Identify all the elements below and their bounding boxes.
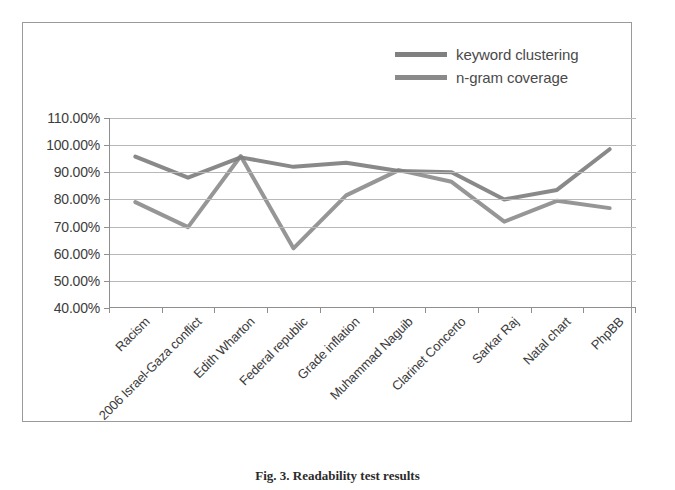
x-axis-category-label: Racism [112, 314, 152, 354]
figure-container: keyword clustering n-gram coverage 110.0… [0, 0, 675, 490]
legend-item-label: n-gram coverage [456, 69, 568, 86]
y-axis-tick [104, 118, 110, 119]
x-axis-category-label: PhpBB [588, 314, 627, 353]
gridline [109, 254, 636, 255]
x-axis-category-label: Sarkar Raj [469, 314, 522, 367]
y-axis-tick [104, 227, 110, 228]
legend-swatch-icon [395, 75, 447, 80]
y-axis-tick-label: 110.00% [47, 110, 100, 126]
chart-frame: keyword clustering n-gram coverage 110.0… [22, 22, 632, 422]
y-axis-tick-label: 100.00% [46, 137, 100, 153]
legend-swatch-icon [395, 52, 447, 57]
y-axis-tick [104, 172, 110, 173]
gridline [109, 145, 636, 146]
legend-item-label: keyword clustering [456, 46, 578, 63]
y-axis-tick-label: 70.00% [54, 219, 100, 235]
legend-item-n-gram-coverage[interactable]: n-gram coverage [395, 66, 625, 89]
y-axis-tick [104, 254, 110, 255]
y-axis-tick [104, 281, 110, 282]
gridline [109, 281, 636, 282]
y-axis-tick-label: 90.00% [54, 164, 100, 180]
y-axis-tick-label: 80.00% [54, 191, 100, 207]
x-axis-category-label: Natal chart [520, 314, 574, 368]
legend-item-keyword-clustering[interactable]: keyword clustering [395, 43, 625, 66]
series-line-1 [135, 149, 609, 199]
y-axis-tick-label: 40.00% [54, 300, 100, 316]
x-axis-category-label: 2006 Israel-Gaza conflict [96, 314, 205, 423]
chart-legend: keyword clustering n-gram coverage [395, 43, 625, 89]
x-axis-labels: Racism2006 Israel-Gaza conflictEdith Wha… [109, 308, 636, 428]
series-svg [109, 118, 636, 308]
gridline [109, 199, 636, 200]
figure-caption: Fig. 3. Readability test results [0, 468, 675, 484]
y-axis-tick-label: 60.00% [54, 246, 100, 262]
gridline [109, 172, 636, 173]
y-axis-tick [104, 199, 110, 200]
plot-inner: 110.00%100.00%90.00%80.00%70.00%60.00%50… [109, 118, 636, 308]
gridline [109, 118, 636, 119]
gridline [109, 227, 636, 228]
y-axis-tick-label: 50.00% [54, 273, 100, 289]
y-axis-tick [104, 145, 110, 146]
plot-area: 110.00%100.00%90.00%80.00%70.00%60.00%50… [109, 118, 636, 308]
